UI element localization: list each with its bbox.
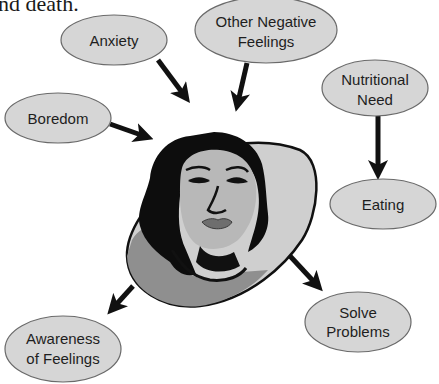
node-awareness-of-feelings: Awareness of Feelings: [5, 316, 121, 382]
node-boredom: Boredom: [5, 93, 111, 143]
svg-text:Solve: Solve: [339, 304, 377, 321]
svg-text:Other Negative: Other Negative: [216, 13, 317, 30]
svg-text:Anxiety: Anxiety: [89, 32, 139, 49]
svg-text:Nutritional: Nutritional: [341, 71, 409, 88]
arrow-other-negative-to-center: [238, 63, 247, 102]
node-eating: Eating: [330, 179, 436, 229]
node-label-line1: Solve: [339, 304, 377, 321]
svg-text:Need: Need: [357, 91, 393, 108]
node-label-line1: Other Negative: [216, 13, 317, 30]
node-label-line2: of Feelings: [26, 350, 99, 367]
svg-text:Feelings: Feelings: [238, 33, 295, 50]
arrow-boredom-to-center: [110, 124, 144, 136]
diagram-canvas: Anxiety Other Negative Feelings Boredom …: [0, 0, 439, 384]
node-anxiety: Anxiety: [61, 15, 167, 65]
node-solve-problems: Solve Problems: [305, 292, 411, 352]
arrow-center-to-awareness: [114, 286, 133, 307]
node-label-line2: Need: [357, 91, 393, 108]
node-label-line2: Feelings: [238, 33, 295, 50]
node-label-line1: Nutritional: [341, 71, 409, 88]
svg-text:Eating: Eating: [362, 196, 405, 213]
node-label-line1: Awareness: [26, 330, 100, 347]
arrow-center-to-solve: [290, 256, 316, 284]
node-label: Anxiety: [89, 32, 139, 49]
woman-face-illustration: [127, 132, 316, 307]
arrow-anxiety-to-center: [158, 60, 184, 95]
node-label-line2: Problems: [326, 323, 389, 340]
svg-text:Boredom: Boredom: [28, 110, 89, 127]
svg-text:of Feelings: of Feelings: [26, 350, 99, 367]
node-nutritional-need: Nutritional Need: [322, 60, 428, 116]
node-label: Boredom: [28, 110, 89, 127]
node-label: Eating: [362, 196, 405, 213]
svg-text:Problems: Problems: [326, 323, 389, 340]
node-other-negative-feelings: Other Negative Feelings: [195, 0, 337, 63]
svg-text:Awareness: Awareness: [26, 330, 100, 347]
